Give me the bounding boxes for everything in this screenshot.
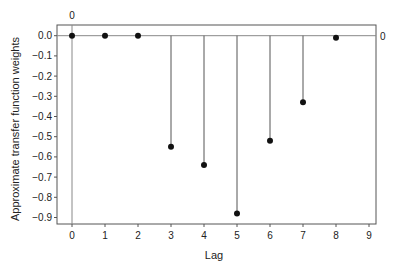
data-point-marker — [102, 33, 108, 39]
horizontal-reference-label: 0 — [380, 31, 386, 42]
data-point-marker — [69, 33, 75, 39]
data-point-marker — [234, 210, 240, 216]
x-tick-label: 2 — [135, 230, 141, 241]
y-tick-label: −0.3 — [32, 91, 52, 102]
data-stems — [69, 33, 339, 217]
y-tick-label: −0.6 — [32, 151, 52, 162]
data-point-marker — [168, 144, 174, 150]
y-tick-label: −0.8 — [32, 192, 52, 203]
data-point-marker — [267, 138, 273, 144]
plot-frame — [57, 25, 376, 224]
y-axis: 0.0−0.1−0.2−0.3−0.4−0.5−0.6−0.7−0.8−0.9 — [32, 30, 57, 223]
y-tick-label: −0.9 — [32, 212, 52, 223]
x-tick-label: 3 — [168, 230, 174, 241]
plot-border — [57, 25, 376, 224]
data-point-marker — [201, 162, 207, 168]
x-tick-label: 4 — [201, 230, 207, 241]
x-tick-label: 6 — [267, 230, 273, 241]
y-tick-label: −0.1 — [32, 50, 52, 61]
data-point-marker — [333, 35, 339, 41]
vertical-reference-label: 0 — [69, 10, 75, 21]
stem-chart: 0.0−0.1−0.2−0.3−0.4−0.5−0.6−0.7−0.8−0.9 … — [0, 0, 400, 269]
y-tick-label: −0.5 — [32, 131, 52, 142]
x-tick-label: 7 — [300, 230, 306, 241]
x-tick-label: 9 — [366, 230, 372, 241]
data-point-marker — [300, 99, 306, 105]
x-tick-label: 0 — [69, 230, 75, 241]
x-tick-label: 8 — [333, 230, 339, 241]
reference-lines — [57, 25, 376, 224]
y-axis-label: Approximate transfer function weights — [9, 36, 21, 221]
x-tick-label: 1 — [102, 230, 108, 241]
x-axis-label: Lag — [205, 249, 223, 261]
data-point-marker — [135, 33, 141, 39]
x-axis: 0123456789 — [69, 224, 372, 241]
y-tick-label: −0.2 — [32, 71, 52, 82]
y-tick-label: −0.4 — [32, 111, 52, 122]
x-tick-label: 5 — [234, 230, 240, 241]
y-tick-label: 0.0 — [38, 30, 52, 41]
y-tick-label: −0.7 — [32, 172, 52, 183]
